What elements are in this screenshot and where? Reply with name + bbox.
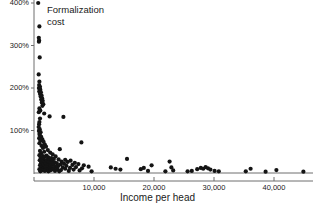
data-point [36, 1, 40, 5]
data-point [79, 140, 83, 144]
data-point [66, 160, 70, 164]
data-point [53, 169, 57, 173]
data-point [114, 167, 118, 171]
data-point [67, 169, 71, 173]
data-point [42, 111, 46, 115]
data-point [78, 168, 82, 172]
data-point [208, 168, 212, 172]
data-point [58, 147, 62, 151]
data-point [213, 169, 217, 173]
data-point [150, 163, 154, 167]
y-axis-tick-label: 400% [2, 0, 29, 7]
data-point [37, 72, 41, 76]
data-point [61, 115, 65, 119]
data-point [118, 168, 122, 172]
data-point [37, 40, 41, 44]
x-axis-title: Income per head [0, 192, 315, 203]
data-point [217, 169, 221, 173]
data-point [63, 167, 67, 171]
data-point [90, 169, 94, 173]
x-axis-tick-label: 10,000 [74, 183, 114, 192]
x-axis-tick-label: 20,000 [134, 183, 174, 192]
data-point [87, 165, 91, 169]
data-point [146, 169, 150, 173]
data-point [301, 170, 305, 174]
data-point [37, 110, 41, 114]
data-point [190, 169, 194, 173]
data-point [264, 170, 268, 174]
data-point [38, 55, 42, 59]
data-point [186, 169, 190, 173]
data-point [46, 169, 50, 173]
data-point [125, 157, 129, 161]
y-axis-tick-label: 200% [2, 83, 29, 92]
data-point [249, 167, 253, 171]
data-point [195, 167, 199, 171]
data-point [171, 168, 175, 172]
data-point [48, 114, 52, 118]
y-axis-tick-label: 300% [2, 41, 29, 50]
plot-area [0, 0, 315, 212]
data-point [41, 146, 45, 150]
data-point [57, 169, 61, 173]
data-point [37, 24, 41, 28]
formalization-cost-annotation: Formalization cost [47, 4, 104, 27]
x-axis-tick-label: 40,000 [254, 183, 294, 192]
data-point [142, 166, 146, 170]
data-point [43, 169, 47, 173]
data-point [72, 168, 76, 172]
scatter-chart: Formalization cost 100%200%300%400% 10,0… [0, 0, 315, 212]
data-point [109, 165, 113, 169]
data-point [274, 168, 278, 172]
data-point [168, 159, 172, 163]
data-point [244, 169, 248, 173]
x-axis-tick-label: 30,000 [194, 183, 234, 192]
data-point [38, 169, 42, 173]
y-axis-tick-label: 100% [2, 126, 29, 135]
data-point [163, 169, 167, 173]
